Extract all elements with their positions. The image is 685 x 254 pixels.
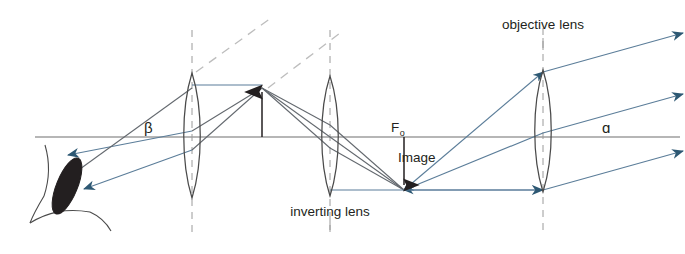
angle-alpha-label: ɑ bbox=[602, 119, 610, 136]
incoming-ray-middle bbox=[543, 94, 683, 133]
incoming-parallel-rays bbox=[543, 33, 683, 190]
focal-point-subscript: o bbox=[400, 128, 405, 138]
virtual-image-construction-lines bbox=[196, 18, 340, 88]
exit-ray-lower bbox=[84, 150, 192, 189]
optical-ray-diagram: objective lens inverting lens Fo Image β… bbox=[0, 0, 685, 254]
angle-beta-label: β bbox=[144, 119, 153, 136]
focal-point-label: Fo bbox=[391, 120, 405, 138]
focal-point-letter: F bbox=[391, 120, 399, 135]
converging-ray-top bbox=[404, 72, 543, 190]
lens-center-dashed-lines bbox=[192, 28, 543, 232]
image-label: Image bbox=[398, 150, 436, 165]
eyepiece-rays bbox=[192, 88, 262, 150]
inverting-lens-label: inverting lens bbox=[290, 204, 370, 219]
construction-line-upper bbox=[196, 18, 271, 72]
lens-group bbox=[184, 70, 552, 198]
objective-converging-rays bbox=[404, 72, 543, 190]
inv-ray-b-in bbox=[330, 137, 404, 190]
inv-ray-a-in bbox=[330, 148, 404, 190]
inv-ray-c-out bbox=[262, 88, 330, 125]
eye-outline-right bbox=[90, 212, 111, 231]
objective-lens-label: objective lens bbox=[502, 17, 584, 32]
eye bbox=[30, 145, 111, 231]
label-leaders bbox=[330, 38, 543, 230]
incoming-ray-top bbox=[543, 33, 683, 72]
inv-ray-a-out bbox=[262, 88, 330, 148]
eyepiece-ray-lower-in bbox=[192, 88, 262, 150]
inv-ray-b-out bbox=[262, 88, 330, 137]
eye-outline-upper bbox=[44, 145, 49, 196]
incoming-ray-bottom bbox=[543, 151, 683, 190]
exit-ray-upper bbox=[68, 131, 192, 155]
exit-rays-to-eye bbox=[68, 131, 192, 189]
eye-pupil bbox=[46, 154, 88, 217]
eyepiece-ray-upper-in bbox=[192, 88, 262, 131]
inverting-lens-rays bbox=[262, 88, 404, 190]
optics-canvas: objective lens inverting lens Fo Image β… bbox=[0, 0, 685, 254]
